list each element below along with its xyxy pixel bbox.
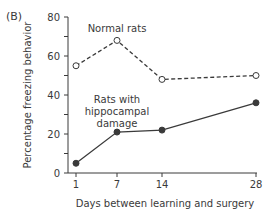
data-point xyxy=(159,76,165,82)
line-chart: 020406080171428Days between learning and… xyxy=(0,0,274,219)
y-axis-label: Percentage freezing behavior xyxy=(22,21,33,169)
data-point xyxy=(253,100,259,106)
annotation-hippocampal-damage: damage xyxy=(97,118,138,129)
data-point xyxy=(73,63,79,69)
x-tick-label: 1 xyxy=(73,179,79,190)
series-line-0 xyxy=(76,40,256,79)
x-tick-label: 14 xyxy=(156,179,169,190)
annotation-hippocampal-damage: hippocampal xyxy=(85,106,150,117)
annotation-hippocampal-damage: Rats with xyxy=(94,94,140,105)
y-tick-label: 0 xyxy=(54,168,60,179)
x-tick-label: 7 xyxy=(114,179,120,190)
data-point xyxy=(114,129,120,135)
x-axis-label: Days between learning and surgery xyxy=(76,198,255,209)
annotation-normal-rats: Normal rats xyxy=(88,23,147,34)
y-tick-label: 20 xyxy=(47,129,60,140)
data-point xyxy=(253,73,259,79)
y-tick-label: 80 xyxy=(47,12,60,23)
data-point xyxy=(73,160,79,166)
y-tick-label: 40 xyxy=(47,90,60,101)
data-point xyxy=(114,37,120,43)
x-tick-label: 28 xyxy=(250,179,263,190)
y-tick-label: 60 xyxy=(47,51,60,62)
data-point xyxy=(159,127,165,133)
